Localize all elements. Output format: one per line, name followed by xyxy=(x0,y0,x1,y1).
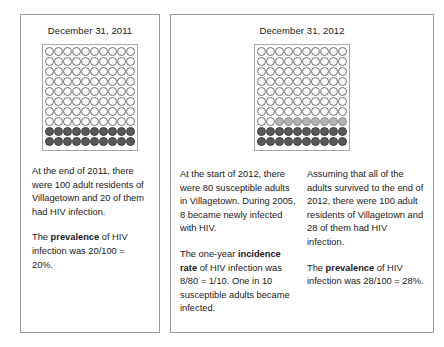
dot-empty xyxy=(311,97,320,106)
emphasis-term: prevalence xyxy=(326,263,375,273)
dot-dark xyxy=(293,137,302,146)
dot-empty xyxy=(275,77,284,86)
dot-empty xyxy=(99,87,108,96)
dot-empty xyxy=(329,107,338,116)
dot-empty xyxy=(329,47,338,56)
dot-empty xyxy=(99,47,108,56)
dot-empty xyxy=(90,47,99,56)
dot-empty xyxy=(108,67,117,76)
dot-empty xyxy=(293,97,302,106)
dot-empty xyxy=(45,97,54,106)
dot-dark xyxy=(126,137,135,146)
dot-empty xyxy=(54,57,63,66)
dot-empty xyxy=(266,57,275,66)
dot-dark xyxy=(311,127,320,136)
dot-empty xyxy=(81,47,90,56)
panel-title-2012: December 31, 2012 xyxy=(171,15,433,37)
dot-empty xyxy=(266,87,275,96)
dot-empty xyxy=(338,107,347,116)
dot-empty xyxy=(275,107,284,116)
dot-empty xyxy=(302,47,311,56)
dot-empty xyxy=(266,117,275,126)
dot-empty xyxy=(293,47,302,56)
dot-empty xyxy=(338,77,347,86)
dot-empty xyxy=(302,67,311,76)
dot-grid-row xyxy=(257,87,347,97)
dot-empty xyxy=(338,57,347,66)
dot-empty xyxy=(81,57,90,66)
dot-empty xyxy=(293,87,302,96)
dot-empty xyxy=(117,67,126,76)
dot-empty xyxy=(311,87,320,96)
dot-dark xyxy=(45,127,54,136)
dot-dark xyxy=(257,127,266,136)
dot-empty xyxy=(117,117,126,126)
dot-empty xyxy=(284,67,293,76)
text-segment: The xyxy=(307,263,326,273)
dot-empty xyxy=(90,87,99,96)
dot-dark xyxy=(320,137,329,146)
dot-dark xyxy=(329,127,338,136)
dot-empty xyxy=(311,67,320,76)
dot-empty xyxy=(275,47,284,56)
dot-grid-row xyxy=(257,107,347,117)
dot-empty xyxy=(329,57,338,66)
dot-empty xyxy=(126,57,135,66)
dot-grid-row xyxy=(257,67,347,77)
dot-empty xyxy=(266,47,275,56)
dot-mid xyxy=(320,117,329,126)
dot-dark xyxy=(108,127,117,136)
dot-empty xyxy=(54,107,63,116)
dot-empty xyxy=(266,67,275,76)
dot-empty xyxy=(72,117,81,126)
dot-empty xyxy=(72,47,81,56)
dot-dark xyxy=(284,127,293,136)
dot-empty xyxy=(99,77,108,86)
dot-empty xyxy=(126,117,135,126)
dot-empty xyxy=(275,97,284,106)
dot-empty xyxy=(63,97,72,106)
dot-empty xyxy=(257,107,266,116)
dot-empty xyxy=(90,107,99,116)
dot-empty xyxy=(81,77,90,86)
text-segment: of HIV infection was 8/80 = 1/10. One in… xyxy=(180,263,290,314)
dot-empty xyxy=(311,77,320,86)
dot-empty xyxy=(45,77,54,86)
dot-dark xyxy=(63,137,72,146)
dot-empty xyxy=(338,67,347,76)
dot-dark xyxy=(99,137,108,146)
dot-mid xyxy=(338,117,347,126)
dot-empty xyxy=(320,57,329,66)
dot-dark xyxy=(320,127,329,136)
paragraph: The prevalence of HIV infection was 28/1… xyxy=(307,262,424,289)
dot-empty xyxy=(126,47,135,56)
dot-empty xyxy=(257,87,266,96)
dot-empty xyxy=(90,77,99,86)
dot-empty xyxy=(338,47,347,56)
dot-empty xyxy=(266,107,275,116)
dot-dark xyxy=(72,127,81,136)
dot-dark xyxy=(302,127,311,136)
dot-grid-row xyxy=(257,97,347,107)
dot-empty xyxy=(275,57,284,66)
dot-empty xyxy=(108,77,117,86)
paragraph: Assuming that all of the adults survived… xyxy=(307,168,424,250)
panel-2011: December 31, 2011 At the end of 2011, th… xyxy=(20,14,160,333)
dot-grid-wrapper-2012 xyxy=(171,44,433,151)
dot-empty xyxy=(54,47,63,56)
dot-grid-row xyxy=(257,47,347,57)
dot-grid-row xyxy=(45,107,135,117)
dot-empty xyxy=(63,87,72,96)
dot-empty xyxy=(302,87,311,96)
dot-dark xyxy=(284,137,293,146)
dot-dark xyxy=(293,127,302,136)
dot-grid-row xyxy=(257,117,347,127)
panel-title-2011: December 31, 2011 xyxy=(21,15,159,37)
dot-dark xyxy=(99,127,108,136)
dot-grid-2011 xyxy=(42,44,138,151)
dot-empty xyxy=(108,117,117,126)
dot-empty xyxy=(311,107,320,116)
dot-empty xyxy=(275,87,284,96)
dot-empty xyxy=(320,67,329,76)
dot-empty xyxy=(45,67,54,76)
